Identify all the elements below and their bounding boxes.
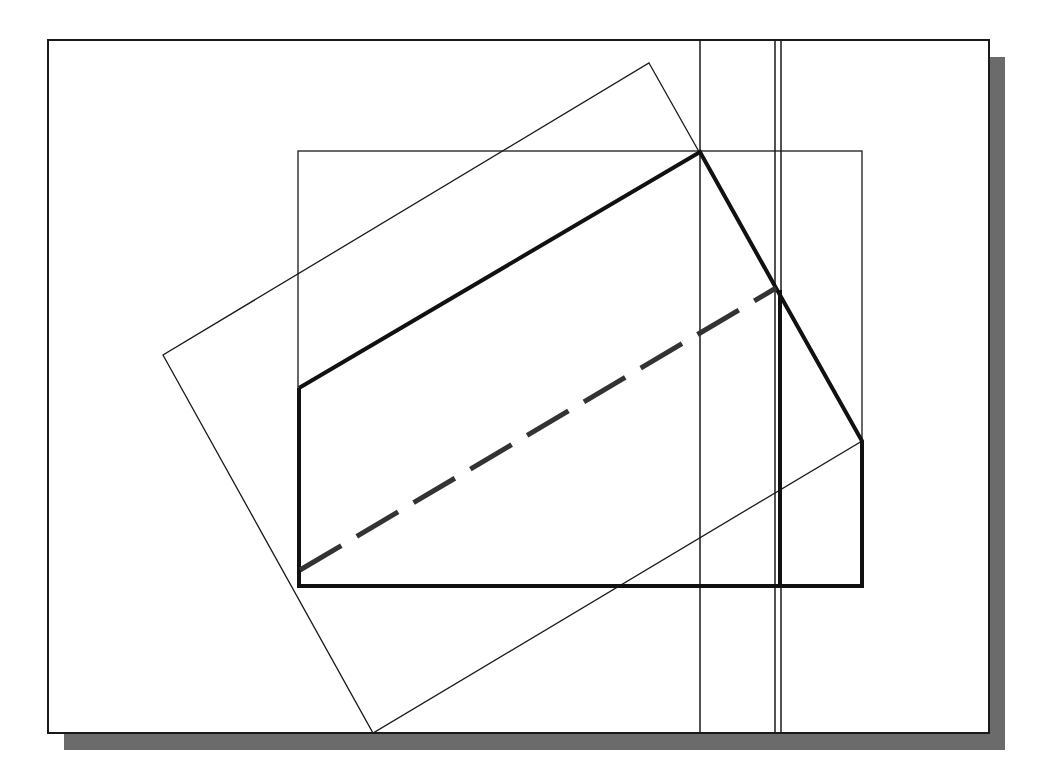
drawing-canvas: [0, 0, 1044, 780]
drawing-frame: [48, 40, 989, 733]
